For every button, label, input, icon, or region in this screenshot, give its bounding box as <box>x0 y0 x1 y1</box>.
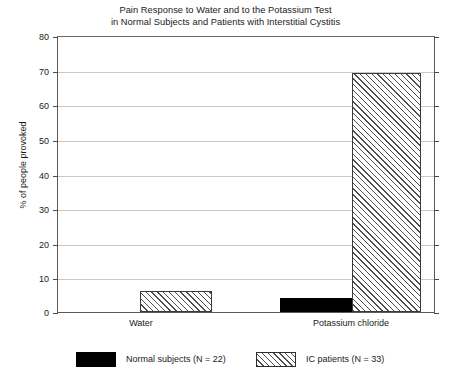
y-axis-label: % of people provoked <box>18 95 28 235</box>
y-tick-0-left <box>53 313 58 314</box>
y-tick-70-left <box>53 72 58 73</box>
y-tick-0-right <box>434 313 439 314</box>
legend-item-ic-patients: IC patients (N = 33) <box>256 350 384 368</box>
chart-figure: Pain Response to Water and to the Potass… <box>0 0 451 382</box>
x-category-label-water: Water <box>129 318 153 328</box>
legend-label-normal-subjects: Normal subjects (N = 22) <box>126 354 226 364</box>
chart-title-line-2: in Normal Subjects and Patients with Int… <box>0 16 451 28</box>
bar-water-ic-patients <box>140 291 212 312</box>
y-tick-40-right <box>434 176 439 177</box>
gridline-80 <box>58 37 434 38</box>
y-tick-label-80: 80 <box>39 32 49 42</box>
bar-kcl-ic-patients <box>352 73 421 312</box>
y-tick-label-60: 60 <box>39 101 49 111</box>
y-tick-20-left <box>53 245 58 246</box>
y-tick-10-left <box>53 279 58 280</box>
y-tick-80-right <box>434 37 439 38</box>
y-tick-label-40: 40 <box>39 171 49 181</box>
y-tick-50-left <box>53 141 58 142</box>
legend-label-ic-patients: IC patients (N = 33) <box>306 354 384 364</box>
y-tick-label-0: 0 <box>44 308 49 318</box>
y-tick-label-30: 30 <box>39 205 49 215</box>
chart-title: Pain Response to Water and to the Potass… <box>0 4 451 28</box>
y-tick-70-right <box>434 72 439 73</box>
y-tick-10-right <box>434 279 439 280</box>
chart-title-line-1: Pain Response to Water and to the Potass… <box>0 4 451 16</box>
y-tick-20-right <box>434 245 439 246</box>
chart-legend: Normal subjects (N = 22) IC patients (N … <box>0 350 451 372</box>
legend-swatch-hatched-icon <box>256 352 296 367</box>
bar-kcl-normal-subjects <box>280 298 352 312</box>
y-tick-40-left <box>53 176 58 177</box>
plot-area: 80 70 60 50 40 30 20 10 0 <box>57 36 435 313</box>
y-tick-label-20: 20 <box>39 240 49 250</box>
y-tick-30-right <box>434 210 439 211</box>
legend-item-normal-subjects: Normal subjects (N = 22) <box>76 350 226 368</box>
x-category-label-potassium-chloride: Potassium chloride <box>313 318 389 328</box>
y-tick-60-right <box>434 106 439 107</box>
y-tick-label-70: 70 <box>39 67 49 77</box>
y-tick-50-right <box>434 141 439 142</box>
y-tick-60-left <box>53 106 58 107</box>
y-tick-label-50: 50 <box>39 136 49 146</box>
y-tick-label-10: 10 <box>39 274 49 284</box>
y-tick-30-left <box>53 210 58 211</box>
y-tick-80-left <box>53 37 58 38</box>
legend-swatch-solid-icon <box>76 352 116 367</box>
